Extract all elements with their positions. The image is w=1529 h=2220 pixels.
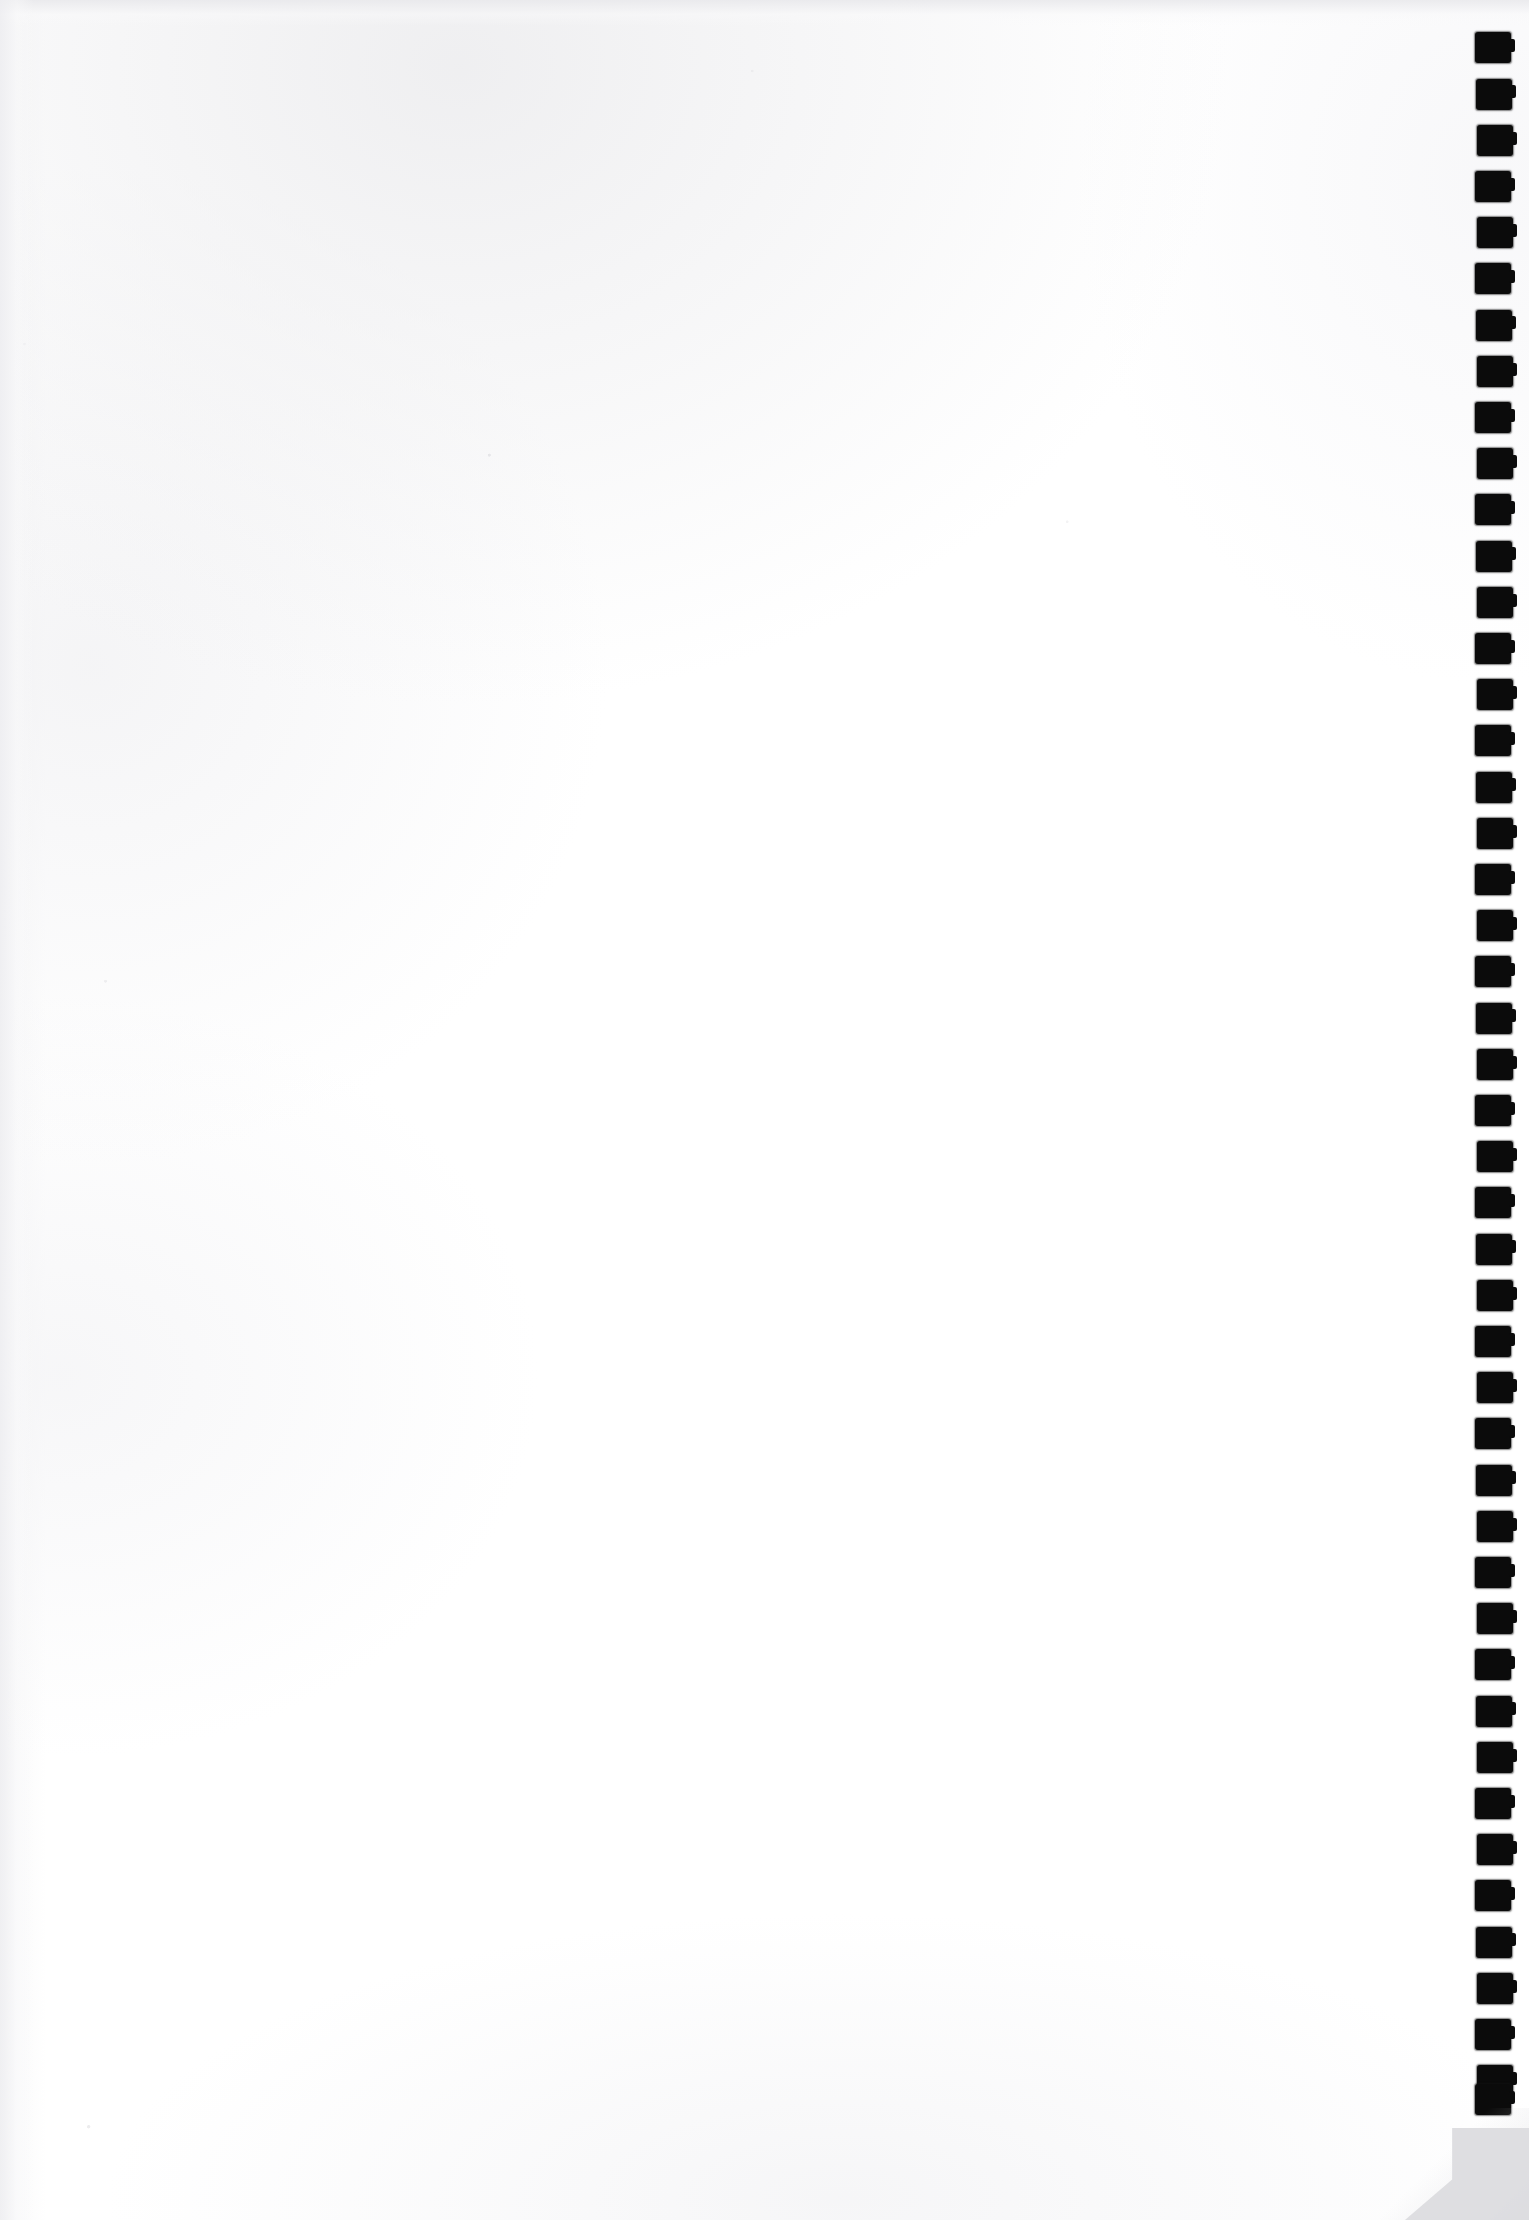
registration-mark — [1475, 263, 1511, 294]
registration-mark — [1476, 1927, 1512, 1958]
registration-mark — [1475, 1557, 1511, 1588]
registration-mark — [1477, 1603, 1513, 1634]
registration-mark — [1477, 448, 1513, 479]
scanned-page-canvas — [0, 0, 1529, 2220]
registration-mark — [1477, 1973, 1513, 2004]
registration-mark — [1475, 633, 1511, 664]
registration-mark — [1476, 1465, 1512, 1496]
registration-mark — [1476, 310, 1512, 341]
registration-mark — [1477, 1141, 1513, 1172]
registration-mark — [1477, 679, 1513, 710]
registration-mark — [1475, 1649, 1511, 1680]
registration-mark — [1476, 1003, 1512, 1034]
registration-mark — [1476, 1696, 1512, 1727]
registration-mark — [1477, 910, 1513, 941]
registration-mark — [1477, 217, 1513, 248]
registration-mark — [1477, 1742, 1513, 1773]
registration-mark — [1475, 1095, 1511, 1126]
registration-mark — [1476, 541, 1512, 572]
registration-mark-rail — [1476, 0, 1526, 2220]
registration-mark — [1477, 1511, 1513, 1542]
registration-mark — [1477, 1280, 1513, 1311]
registration-mark — [1475, 2019, 1511, 2050]
registration-mark — [1475, 1326, 1511, 1357]
scan-edge-top-shading — [0, 0, 1529, 26]
registration-mark — [1475, 494, 1511, 525]
scan-edge-left-gutter — [0, 0, 34, 2220]
registration-mark — [1475, 1788, 1511, 1819]
registration-mark — [1476, 772, 1512, 803]
registration-mark — [1477, 356, 1513, 387]
registration-mark — [1475, 402, 1511, 433]
registration-mark — [1476, 79, 1512, 110]
registration-mark — [1475, 864, 1511, 895]
registration-mark — [1475, 956, 1511, 987]
registration-mark — [1476, 1234, 1512, 1265]
registration-mark — [1477, 1834, 1513, 1865]
registration-mark — [1475, 1418, 1511, 1449]
paper-grain-texture — [0, 0, 1529, 2220]
registration-mark — [1477, 818, 1513, 849]
registration-mark — [1475, 1880, 1511, 1911]
registration-mark — [1477, 587, 1513, 618]
registration-mark — [1477, 1049, 1513, 1080]
registration-mark — [1475, 32, 1511, 63]
registration-mark — [1475, 1187, 1511, 1218]
registration-mark — [1475, 725, 1511, 756]
registration-mark — [1475, 171, 1511, 202]
registration-mark — [1477, 1372, 1513, 1403]
registration-mark — [1477, 125, 1513, 156]
